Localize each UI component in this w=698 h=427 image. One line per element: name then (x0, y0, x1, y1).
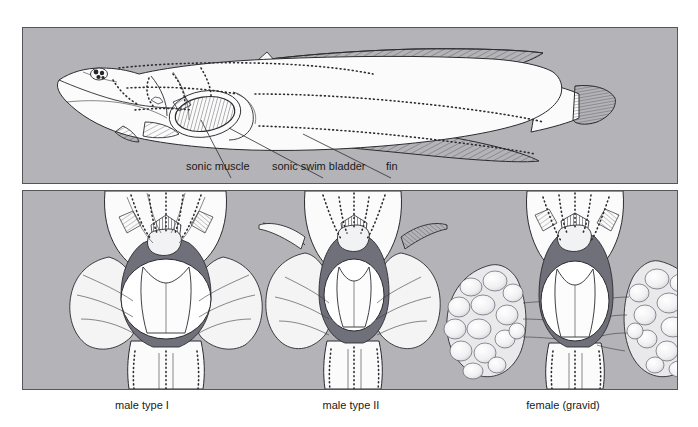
figure-container: sonic muscle sonic swim bladder fin (0, 0, 698, 427)
caption-male-type-I: male type I (92, 399, 192, 411)
specimen-male-type-I (70, 191, 262, 389)
caption-male-type-II: male type II (301, 399, 401, 411)
specimen-female-gravid[interactable] (444, 191, 677, 389)
caption-female-gravid: female (gravid) (510, 399, 616, 411)
ventral-specimens-drawing (23, 191, 677, 389)
left-long-fin (259, 224, 305, 250)
posterior-body (546, 343, 605, 389)
heart (557, 225, 591, 252)
ventral-dissection-panel (22, 190, 678, 390)
heart (337, 225, 369, 252)
label-sonic-swim-bladder: sonic swim bladder (272, 160, 366, 172)
label-sonic-muscle: sonic muscle (186, 160, 250, 172)
caudal-fin (573, 86, 615, 125)
label-fin: fin (386, 160, 398, 172)
eye (91, 68, 108, 80)
specimen-male-type-II[interactable] (259, 191, 447, 389)
right-long-fin (401, 224, 447, 250)
posterior-body (324, 341, 383, 389)
